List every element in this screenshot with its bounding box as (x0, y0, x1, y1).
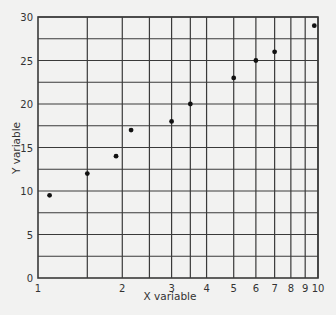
data-point (85, 171, 90, 176)
x-tick-label: 10 (312, 283, 325, 294)
x-tick-label: 5 (231, 283, 237, 294)
data-point (272, 49, 277, 54)
data-point (129, 128, 134, 133)
y-tick-label: 25 (20, 56, 33, 67)
x-tick-label: 2 (119, 283, 125, 294)
x-tick-label: 6 (253, 283, 259, 294)
x-tick-label: 1 (35, 283, 41, 294)
x-tick-label: 4 (203, 283, 209, 294)
y-tick-label: 10 (20, 186, 33, 197)
y-tick-label: 0 (27, 273, 33, 284)
x-tick-label: 9 (302, 283, 308, 294)
y-axis-title: Y variable (10, 122, 22, 175)
y-tick-label: 15 (20, 143, 33, 154)
y-tick-label: 20 (20, 99, 33, 110)
data-point (231, 76, 236, 81)
x-tick-label: 8 (288, 283, 294, 294)
scatter-chart: 051015202530 12345678910 X variable Y va… (0, 0, 336, 315)
grid-lines (38, 17, 318, 278)
x-axis-title: X variable (144, 290, 197, 302)
y-tick-label: 30 (20, 12, 33, 23)
data-point (114, 154, 119, 159)
x-tick-label: 7 (271, 283, 277, 294)
data-point (253, 58, 258, 63)
data-point (188, 102, 193, 107)
y-tick-label: 5 (27, 230, 33, 241)
data-point (169, 119, 174, 124)
data-point (312, 23, 317, 28)
data-point (47, 193, 52, 198)
y-axis-ticks: 051015202530 (20, 12, 33, 284)
